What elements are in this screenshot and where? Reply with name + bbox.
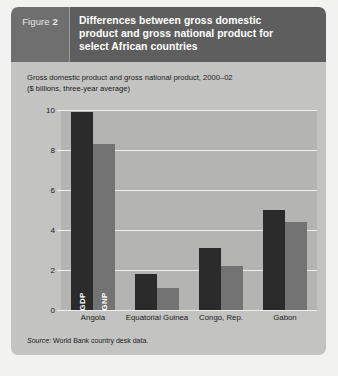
figure-number: 2: [52, 16, 57, 27]
source-prefix: Source:: [27, 337, 51, 344]
figure-title-line-1: Differences between gross domestic: [79, 14, 316, 27]
x-axis-category-label: Congo, Rep.: [199, 313, 243, 322]
figure-title-block: Differences between gross domestic produ…: [69, 7, 326, 62]
bar-group: [135, 110, 179, 310]
y-axis-tick: [57, 310, 61, 311]
y-axis-tick: [57, 110, 61, 111]
plot-area: GDPGNP: [61, 110, 317, 310]
figure-panel: Figure 2 Differences between gross domes…: [11, 7, 326, 355]
figure-title-line-2: product and gross national product for: [79, 27, 316, 40]
chart-source: Source: World Bank country desk data.: [27, 337, 148, 344]
y-axis-tick-label: 4: [51, 226, 55, 235]
y-axis-tick-label: 2: [51, 266, 55, 275]
bar-group: [199, 110, 243, 310]
bar-gdp: [135, 274, 157, 310]
bar-gdp: GDP: [71, 112, 93, 310]
figure-label: Figure 2: [22, 16, 58, 27]
y-axis-tick-label: 8: [51, 146, 55, 155]
y-axis-tick-label: 10: [46, 106, 55, 115]
bar-gnp: GNP: [93, 144, 115, 310]
y-axis-tick-label: 0: [51, 306, 55, 315]
bar-gdp: [199, 248, 221, 310]
bar-inner-label: GDP: [78, 292, 87, 310]
chart-subtitle: Gross domestic product and gross nationa…: [27, 73, 317, 94]
bar-gnp: [221, 266, 243, 310]
y-axis-tick: [57, 190, 61, 191]
y-axis-tick: [57, 270, 61, 271]
source-text: World Bank country desk data.: [51, 337, 148, 344]
x-axis-category-label: Equatorial Guinea: [126, 313, 188, 322]
bar-group: GDPGNP: [71, 110, 115, 310]
x-axis-category-label: Angola: [81, 313, 105, 322]
y-axis: 0246810: [27, 110, 61, 310]
chart-subtitle-line-1: Gross domestic product and gross nationa…: [27, 73, 317, 84]
bar-gnp: [157, 288, 179, 310]
bar-gdp: [263, 210, 285, 310]
bar-inner-label: GNP: [100, 292, 109, 310]
y-axis-tick: [57, 230, 61, 231]
figure-title-line-3: select African countries: [79, 40, 316, 53]
figure-header: Figure 2 Differences between gross domes…: [11, 7, 326, 62]
figure-number-block: Figure 2: [11, 7, 69, 62]
y-axis-tick: [57, 150, 61, 151]
bar-gnp: [285, 222, 307, 310]
chart-subtitle-line-2: ($ billions, three-year average): [27, 84, 317, 95]
y-axis-tick-label: 6: [51, 186, 55, 195]
bar-group: [263, 110, 307, 310]
bar-chart: 0246810 GDPGNP AngolaEquatorial GuineaCo…: [27, 110, 317, 332]
figure-label-prefix: Figure: [22, 16, 50, 27]
x-axis-category-label: Gabon: [273, 313, 296, 322]
